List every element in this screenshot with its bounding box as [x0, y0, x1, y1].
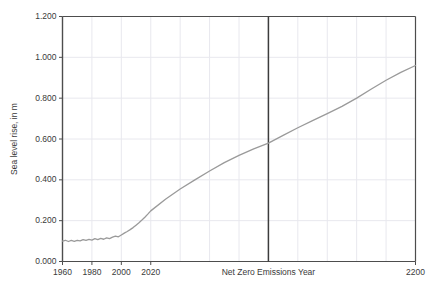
y-axis-title: Sea level rise, in m: [9, 103, 19, 175]
y-tick-label: 0.200: [35, 215, 56, 225]
y-tick-label: 0.000: [35, 256, 56, 266]
y-tick-label: 0.400: [35, 174, 56, 184]
y-tick-label: 0.800: [35, 93, 56, 103]
plot-area: [0, 0, 430, 286]
y-tick-label: 0.600: [35, 134, 56, 144]
annotation-label-net-zero-emissions-year: Net Zero Emissions Year: [222, 267, 316, 277]
x-tick-label: 2200: [406, 267, 425, 277]
x-tick-label: 2020: [141, 267, 160, 277]
x-tick-label: 2000: [112, 267, 131, 277]
y-tick-label: 1.000: [35, 52, 56, 62]
x-tick-label: 1980: [82, 267, 101, 277]
sea-level-rise-chart: 0.0000.2000.4000.6000.8001.0001.20019601…: [0, 0, 430, 286]
x-tick-label: 1960: [53, 267, 72, 277]
y-tick-label: 1.200: [35, 11, 56, 21]
